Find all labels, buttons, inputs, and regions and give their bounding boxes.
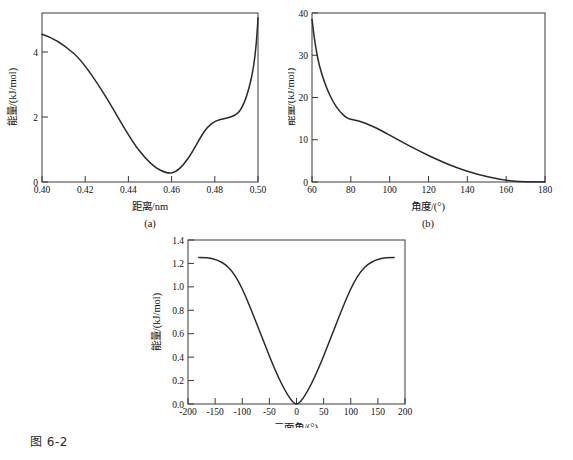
x-tick-label: 100 — [344, 407, 359, 417]
y-tick-label: 1.2 — [172, 259, 184, 269]
x-axis-title-a: 距离/nm — [132, 200, 168, 212]
chart-svg-a: 0.40 0.42 0.44 0.46 0.48 0.50 0 2 4 距离/n… — [0, 0, 290, 232]
x-tick-label: 0.44 — [120, 185, 137, 195]
x-tick-label: 0.42 — [77, 185, 94, 195]
y-axis-tick-labels-a: 0 2 4 — [33, 48, 38, 188]
x-axis-tick-labels-c: -200 -150 -100 -50 0 50 100 150 200 — [179, 407, 412, 417]
x-tick-label: 0.46 — [163, 185, 180, 195]
y-tick-label: 1.4 — [172, 236, 184, 246]
figure-container: 0.40 0.42 0.44 0.46 0.48 0.50 0 2 4 距离/n… — [0, 0, 573, 460]
plot-frame-a — [42, 13, 258, 182]
y-axis-title-c: 能量/(kJ/mol) — [150, 292, 163, 351]
y-axis-ticks-c — [188, 240, 194, 404]
x-tick-label: 200 — [398, 407, 413, 417]
plot-frame-b — [312, 13, 545, 182]
x-tick-label: 150 — [371, 407, 386, 417]
y-tick-label: 1.0 — [172, 282, 184, 292]
y-tick-label: 0.6 — [172, 329, 184, 339]
x-tick-label: 0.50 — [250, 185, 267, 195]
x-tick-label: 120 — [421, 185, 436, 195]
x-tick-label: 160 — [499, 185, 514, 195]
x-axis-tick-labels-b: 60 80 100 120 140 160 180 — [307, 185, 552, 195]
y-tick-label: 0.2 — [172, 376, 184, 386]
x-tick-label: 180 — [538, 185, 553, 195]
y-axis-tick-labels-b: 0 10 20 30 40 — [299, 9, 309, 188]
x-tick-label: 140 — [460, 185, 475, 195]
y-tick-label: 2 — [33, 113, 38, 123]
x-axis-ticks-a — [42, 176, 258, 182]
chart-panel-a: 0.40 0.42 0.44 0.46 0.48 0.50 0 2 4 距离/n… — [0, 0, 290, 232]
y-axis-ticks-a — [42, 52, 48, 182]
data-curve-c — [199, 258, 394, 404]
chart-panel-b: 60 80 100 120 140 160 180 0 10 20 30 4 — [288, 0, 573, 232]
y-axis-tick-labels-c: 0.0 0.2 0.4 0.6 0.8 1.0 1.2 1.4 — [172, 236, 184, 410]
x-tick-label: 50 — [319, 407, 329, 417]
x-tick-label: -150 — [206, 407, 224, 417]
data-curve-a — [42, 18, 258, 173]
figure-caption: 图 6-2 — [30, 432, 68, 449]
x-axis-title-c: 二面角/(°) — [274, 422, 319, 428]
y-tick-label: 0.8 — [172, 306, 184, 316]
x-tick-label: -50 — [263, 407, 276, 417]
x-tick-label: -100 — [234, 407, 252, 417]
y-tick-label: 0.4 — [172, 353, 184, 363]
chart-svg-c: -200 -150 -100 -50 0 50 100 150 200 — [140, 228, 440, 428]
plot-frame-c — [188, 240, 405, 404]
x-tick-label: 60 — [307, 185, 317, 195]
x-axis-tick-labels-a: 0.40 0.42 0.44 0.46 0.48 0.50 — [34, 185, 267, 195]
y-tick-label: 0.0 — [172, 400, 184, 410]
x-tick-label: 0.48 — [206, 185, 223, 195]
y-tick-label: 0 — [33, 178, 38, 188]
x-tick-label: 80 — [346, 185, 356, 195]
x-tick-label: 0 — [294, 407, 299, 417]
y-tick-label: 40 — [299, 9, 309, 19]
y-axis-title-a: 能量/(kJ/mol) — [6, 67, 19, 126]
x-tick-label: 100 — [383, 185, 398, 195]
y-tick-label: 20 — [299, 93, 309, 103]
y-tick-label: 30 — [299, 51, 309, 61]
x-axis-title-b: 角度/(°) — [411, 200, 446, 213]
data-curve-b — [312, 19, 545, 182]
x-axis-ticks-c — [188, 398, 405, 404]
y-tick-label: 10 — [299, 135, 309, 145]
y-tick-label: 4 — [33, 48, 38, 58]
chart-svg-b: 60 80 100 120 140 160 180 0 10 20 30 4 — [288, 0, 573, 232]
y-tick-label: 0 — [303, 178, 308, 188]
y-axis-title-b: 能量/(kJ/mol) — [288, 67, 297, 126]
chart-panel-c: -200 -150 -100 -50 0 50 100 150 200 — [140, 228, 440, 428]
